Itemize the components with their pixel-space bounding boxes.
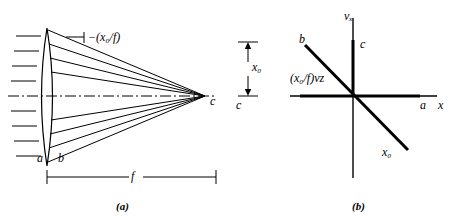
vx-axis-label: vₓ bbox=[344, 10, 353, 22]
lens-front-label: a bbox=[37, 152, 43, 164]
lens-back-label: b bbox=[58, 152, 64, 164]
vx-axis-point-label: c bbox=[360, 38, 365, 50]
lens-element bbox=[42, 28, 53, 166]
x-axis-label: x bbox=[438, 99, 443, 111]
caption-b: (b) bbox=[352, 201, 365, 212]
slope-label: −(x₀/f) bbox=[88, 31, 120, 43]
caption-a: (a) bbox=[116, 201, 129, 212]
lower-right-label: x₀ bbox=[382, 146, 392, 158]
phase-line-label: (x₀/f)vᴢ bbox=[290, 72, 324, 84]
x0-dimension-point-label: c bbox=[236, 99, 241, 111]
x-axis-point-label: a bbox=[420, 99, 426, 111]
optics-figure: −(x₀/f) a b c f x₀ c vₓ c b (x₀/f)vᴢ a x… bbox=[0, 0, 460, 221]
line-start-point-label: b bbox=[299, 33, 305, 45]
focal-length-label: f bbox=[131, 170, 134, 182]
x0-dimension-label: x₀ bbox=[252, 61, 262, 73]
panel-a-drawing bbox=[0, 0, 460, 221]
focal-point-label: c bbox=[210, 95, 215, 107]
